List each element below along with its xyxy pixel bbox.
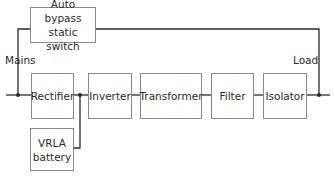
- vrla-battery-block: VRLA battery: [30, 128, 74, 171]
- bypass-switch-block: Auto bypass static switch: [30, 7, 96, 43]
- rectifier-block: Rectifier: [31, 73, 74, 119]
- ups-block-diagram: Auto bypass static switch Mains Load Rec…: [0, 0, 335, 178]
- isolator-block: Isolator: [263, 73, 307, 119]
- load-label: Load: [293, 54, 318, 66]
- filter-block: Filter: [211, 73, 254, 119]
- load-junction-dot: [317, 93, 321, 97]
- transformer-block: Transformer: [140, 73, 202, 119]
- mains-junction-dot: [16, 93, 20, 97]
- inverter-block: Inverter: [88, 73, 132, 119]
- battery-junction-dot: [78, 93, 82, 97]
- mains-label: Mains: [5, 54, 36, 66]
